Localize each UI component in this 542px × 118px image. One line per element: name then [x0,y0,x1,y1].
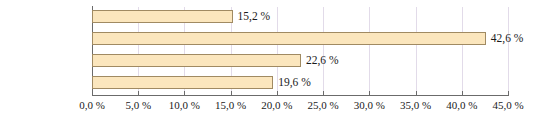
x-axis-tick-label: 45,0 % [478,99,538,111]
bar-value-label: 22,6 % [306,51,339,70]
bar-segment [92,32,486,45]
bar-value-label: 19,6 % [278,73,311,92]
bar-value-label: 42,6 % [491,29,524,48]
bar-segment [92,54,301,67]
bar-chart: 0,0 %5,0 %10,0 %15,0 %20,0 %25,0 %30,0 %… [0,0,542,118]
table-row: nicht sehr wichtig 22,6 % [0,51,542,73]
bar-segment [92,76,273,89]
table-row: unwichtig 19,6 % [0,73,542,95]
x-axis-line [92,95,509,96]
table-row: wichtig 42,6 % [0,29,542,51]
bar-segment [92,10,233,23]
bar-value-label: 15,2 % [238,7,271,26]
table-row: sehr wichtig 15,2 % [0,7,542,29]
